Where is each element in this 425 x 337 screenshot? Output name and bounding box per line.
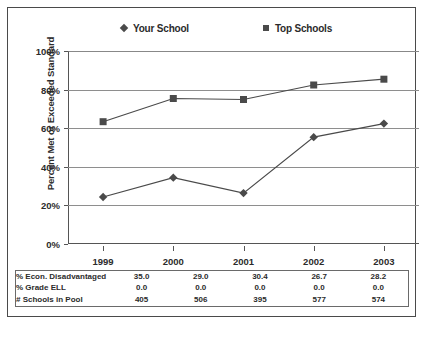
y-axis-tick-label: 20% xyxy=(6,200,66,211)
chart-legend: Your School Top Schools xyxy=(8,20,415,36)
y-axis-tick-label: 40% xyxy=(6,161,66,172)
x-axis-tick-label: 2001 xyxy=(214,256,274,267)
y-axis-tick-label: 80% xyxy=(6,84,66,95)
plot-area: 0%20%40%60%80%100% 19992000200120022003 xyxy=(68,44,419,244)
summary-table-grid: % Econ. Disadvantaged35.029.030.426.728.… xyxy=(16,271,408,306)
legend-entry-your-school: Your School xyxy=(121,23,189,34)
data-point-marker xyxy=(99,193,107,201)
y-axis-tick-label: 100% xyxy=(6,46,66,57)
table-cell: 0.0 xyxy=(112,283,171,295)
x-axis-tick-label: 2000 xyxy=(143,256,203,267)
table-row-label: % Econ. Disadvantaged xyxy=(16,271,112,283)
table-row: % Grade ELL0.00.00.00.00.0 xyxy=(16,283,408,295)
summary-table: % Econ. Disadvantaged35.029.030.426.728.… xyxy=(15,270,409,307)
series-line-your-school xyxy=(103,124,384,197)
x-axis-tick-label: 1999 xyxy=(73,256,133,267)
data-point-marker xyxy=(169,173,177,181)
diamond-marker-icon xyxy=(120,24,128,32)
data-series-layer xyxy=(68,44,419,251)
table-cell: 29.0 xyxy=(171,271,230,283)
legend-label-your-school: Your School xyxy=(133,23,189,34)
legend-entry-top-schools: Top Schools xyxy=(263,23,332,34)
table-cell: 30.4 xyxy=(230,271,289,283)
y-axis-title: Percent Met or Exceeded Standard xyxy=(45,14,56,214)
y-axis-tick-label: 60% xyxy=(6,123,66,134)
data-point-marker xyxy=(310,82,317,89)
table-row-label: % Grade ELL xyxy=(16,283,112,295)
table-cell: 395 xyxy=(230,294,289,306)
y-axis-tick-label: 0% xyxy=(6,239,66,250)
table-row-label: # Schools in Pool xyxy=(16,294,112,306)
table-cell: 506 xyxy=(171,294,230,306)
square-marker-icon xyxy=(263,25,269,31)
x-axis-tick-label: 2003 xyxy=(354,256,414,267)
table-row: % Econ. Disadvantaged35.029.030.426.728.… xyxy=(16,271,408,283)
table-cell: 35.0 xyxy=(112,271,171,283)
table-cell: 577 xyxy=(290,294,349,306)
table-cell: 405 xyxy=(112,294,171,306)
legend-label-top-schools: Top Schools xyxy=(275,23,332,34)
data-point-marker xyxy=(170,95,177,102)
data-point-marker xyxy=(100,118,107,125)
data-point-marker xyxy=(380,119,388,127)
data-point-marker xyxy=(240,96,247,103)
table-cell: 26.7 xyxy=(290,271,349,283)
table-cell: 0.0 xyxy=(230,283,289,295)
table-cell: 28.2 xyxy=(349,271,408,283)
table-cell: 0.0 xyxy=(349,283,408,295)
data-point-marker xyxy=(380,76,387,83)
chart-screenshot: Your School Top Schools Percent Met or E… xyxy=(0,0,425,337)
chart-frame: Your School Top Schools Percent Met or E… xyxy=(7,7,416,317)
table-cell: 0.0 xyxy=(171,283,230,295)
table-row: # Schools in Pool405506395577574 xyxy=(16,294,408,306)
table-cell: 0.0 xyxy=(290,283,349,295)
x-axis-tick-label: 2002 xyxy=(284,256,344,267)
table-cell: 574 xyxy=(349,294,408,306)
